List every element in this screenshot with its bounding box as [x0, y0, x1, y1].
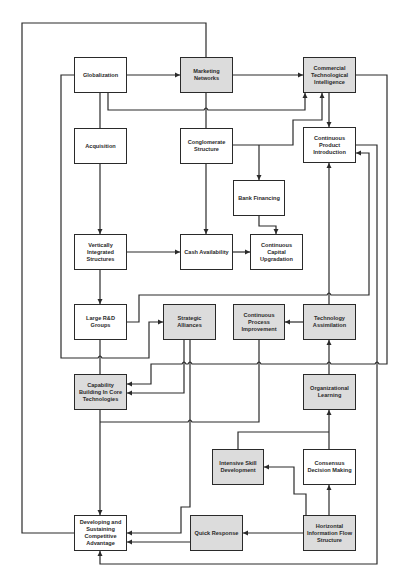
node-ccu: Continuous Capital Upgradation — [250, 234, 303, 270]
node-conglomerate: Conglomerate Structure — [180, 128, 233, 164]
node-skill: Intensive Skill Development — [212, 449, 264, 485]
node-developing: Developing and Sustaining Competitive Ad… — [74, 515, 127, 551]
node-quick: Quick Response — [190, 515, 243, 551]
node-acquisition: Acquisition — [74, 128, 127, 164]
node-globalization: Globalization — [74, 57, 127, 93]
node-bank: Bank Financing — [233, 180, 285, 216]
node-rnd: Large R&D Groups — [74, 304, 127, 340]
node-marketing: Marketing Networks — [180, 57, 233, 93]
node-org_learning: Organizational Learning — [303, 374, 356, 410]
node-capability: Capability Building In Core Technologies — [74, 374, 127, 410]
node-cti: Commercial Technological Intelligence — [303, 57, 356, 93]
node-consensus: Consensus Decision Making — [303, 449, 356, 485]
node-alliances: Strategic Alliances — [163, 304, 216, 340]
node-vis: Vertically Integrated Structures — [74, 234, 127, 270]
node-cash: Cash Availability — [180, 234, 233, 270]
node-cpi_process: Continuous Process Improvement — [233, 304, 285, 340]
node-tech_assim: Technology Assimilation — [303, 304, 356, 340]
node-horizontal: Horizontal Information Flow Structure — [303, 515, 356, 551]
node-cpi_product: Continuous Product Introduction — [303, 127, 356, 163]
